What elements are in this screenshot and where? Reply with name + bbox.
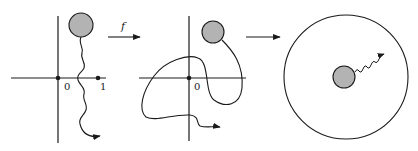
panel-2: 0 [139,16,246,141]
map-label: f [120,20,127,33]
image-path [142,40,242,127]
unit-label: 1 [100,81,106,92]
escape-path [355,54,384,72]
unit-point [96,76,101,81]
origin-point [187,76,192,81]
diagram: 0 1 f 0 [0,0,418,151]
panel-3 [284,15,408,139]
panel-1: 0 1 [11,13,106,143]
particle-disk [69,13,93,37]
origin-point [56,76,61,81]
map-arrow-f: f [108,20,140,37]
origin-label: 0 [194,81,200,92]
center-disk [333,66,355,88]
origin-label: 0 [64,81,70,92]
image-disk [202,21,224,43]
particle-path [78,37,100,136]
